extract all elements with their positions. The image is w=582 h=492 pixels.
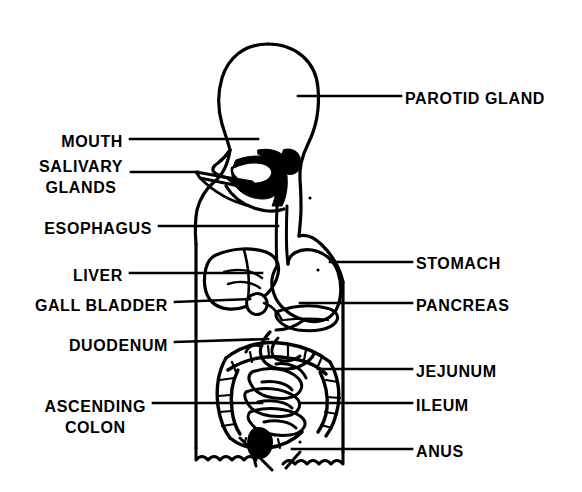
label-stomach: STOMACH: [416, 254, 501, 273]
liver-lobe-fissure: [244, 250, 249, 300]
torso-left-shoulder: [195, 182, 214, 244]
label-salivary-glands-line2: GLANDS: [39, 177, 123, 198]
label-gall-bladder: GALL BLADDER: [35, 296, 168, 315]
label-ileum: ILEUM: [416, 396, 469, 415]
leader-gall-bladder: [175, 299, 250, 302]
rectum-fill: [248, 428, 272, 458]
leader-duodenum: [175, 339, 268, 342]
label-anus: ANUS: [416, 442, 464, 461]
torso-bottom-left-edge: [196, 448, 256, 460]
esophagus-tube: [276, 206, 277, 266]
label-jejunum: JEJUNUM: [416, 362, 497, 381]
label-esophagus: ESOPHAGUS: [44, 219, 152, 238]
label-parotid-gland: PAROTID GLAND: [405, 89, 545, 108]
digestive-system-diagram: MOUTH SALIVARY GLANDS ESOPHAGUS LIVER GA…: [0, 0, 582, 492]
torso-right-shoulder: [299, 235, 343, 282]
label-ascending-colon-line1: ASCENDING: [45, 398, 146, 415]
label-salivary-glands: SALIVARY GLANDS: [39, 156, 123, 198]
label-pancreas: PANCREAS: [416, 296, 509, 315]
parotid-gland-shape: [280, 149, 300, 174]
label-ascending-colon: ASCENDING COLON: [45, 396, 146, 438]
liver-inner-detail-2: [228, 282, 260, 288]
label-ascending-colon-line2: COLON: [45, 417, 146, 438]
navel-mark: [316, 268, 319, 271]
label-liver: LIVER: [73, 266, 123, 285]
abdomen-mark: [298, 440, 301, 443]
anal-canal: [254, 458, 256, 466]
small-intestine-coils: [245, 364, 306, 436]
chest-mark: [308, 196, 311, 199]
label-mouth: MOUTH: [61, 132, 123, 151]
label-salivary-glands-line1: SALIVARY: [39, 158, 123, 175]
skull-front-outline: [219, 44, 268, 150]
esophagus-tube-2: [286, 206, 288, 264]
label-duodenum: DUODENUM: [69, 336, 168, 355]
